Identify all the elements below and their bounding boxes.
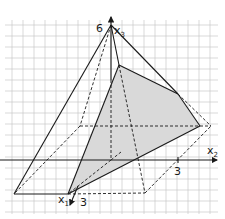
x3-axis-label: x3	[114, 24, 125, 39]
pyramid-diagram: 6 x3 x2 3 x1 3	[0, 0, 225, 219]
x2-tick-label: 3	[174, 165, 181, 178]
x1-tick-label: 3	[80, 196, 87, 209]
x3-tick-label: 6	[96, 22, 103, 35]
